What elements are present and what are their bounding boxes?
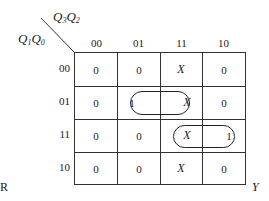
cell: 0: [75, 53, 117, 86]
row-variables-label: Q1Q0: [18, 31, 45, 47]
cell: 0: [75, 119, 117, 152]
cell: 0: [203, 53, 245, 86]
cell: 0: [203, 152, 245, 185]
column-label-10: 10: [202, 37, 245, 49]
side-label: R: [0, 180, 8, 195]
row-label-11: 11: [50, 128, 70, 140]
cell: X: [160, 53, 202, 86]
cell: 0: [118, 152, 160, 185]
row-label-00: 00: [50, 62, 70, 74]
column-label-01: 01: [117, 37, 160, 49]
column-label-00: 00: [75, 37, 118, 49]
cell: 0: [118, 119, 160, 152]
column-variables-label: Q3Q2: [53, 9, 80, 25]
cell: X: [160, 152, 202, 185]
cell: 0: [203, 86, 245, 119]
cell: 0: [118, 53, 160, 86]
column-label-11: 11: [160, 37, 203, 49]
cell: 0: [75, 152, 117, 185]
output-label: Y: [252, 180, 259, 195]
row-label-10: 10: [50, 161, 70, 173]
grouping-loop: [130, 91, 190, 115]
grouping-loop: [173, 125, 235, 148]
row-label-01: 01: [50, 95, 70, 107]
